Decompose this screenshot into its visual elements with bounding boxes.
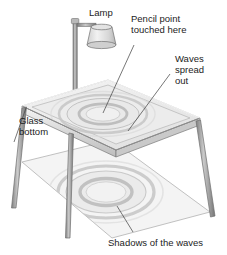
ripple-tank-diagram: Lamp Pencil point touched here Waves spr… <box>0 0 227 255</box>
glass-table-top-group <box>22 80 200 157</box>
lamp-shade-bottom-rim <box>87 41 116 48</box>
label-pencil-point-line1: Pencil point <box>131 13 180 24</box>
label-lamp: Lamp <box>89 7 113 18</box>
label-glass-line2: bottom <box>19 126 48 137</box>
lamp-shade-top <box>91 24 112 30</box>
label-waves-line1: Waves <box>175 53 204 64</box>
label-glass-line1: Glass <box>19 115 44 126</box>
label-pencil-point-line2: touched here <box>131 24 186 35</box>
label-shadows: Shadows of the waves <box>108 237 203 248</box>
label-waves-line3: out <box>175 75 189 86</box>
label-waves-line2: spread <box>175 64 204 75</box>
table-leg-right <box>196 120 215 217</box>
